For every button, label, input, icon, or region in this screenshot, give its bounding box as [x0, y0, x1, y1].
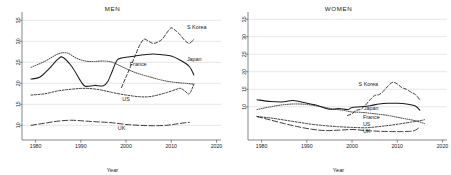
panel-men: MEN 10152025303519801990200020102020S Ko…	[0, 0, 225, 175]
chart-women: 10152025303519801990200020102020S KoreaJ…	[226, 0, 451, 175]
chart-men: 10152025303519801990200020102020S KoreaJ…	[0, 0, 225, 175]
y-tick-label-15: 15	[241, 86, 247, 92]
panel-women: WOMEN 10152025303519801990200020102020S …	[226, 0, 451, 175]
y-tick-label-20: 20	[241, 69, 247, 75]
series-line-us	[31, 84, 194, 97]
y-tick-label-35: 35	[15, 17, 21, 23]
y-tick-label-35: 35	[241, 16, 247, 22]
series-label-japan: Japan	[187, 56, 202, 62]
y-tick-label-25: 25	[15, 59, 21, 65]
series-label-s-korea: S Korea	[359, 81, 378, 87]
x-tick-label-2010: 2010	[391, 143, 403, 149]
x-tick-label-1990: 1990	[75, 143, 87, 149]
series-line-uk	[257, 117, 420, 132]
y-tick-label-10: 10	[241, 104, 247, 110]
y-tick-label-30: 30	[241, 34, 247, 40]
x-tick-label-2010: 2010	[165, 143, 177, 149]
series-label-japan: Japan	[364, 105, 379, 111]
series-line-france	[31, 53, 194, 84]
series-label-uk: UK	[363, 128, 371, 134]
y-tick-label-15: 15	[15, 101, 21, 107]
series-label-uk: UK	[118, 125, 126, 131]
series-label-us: US	[122, 96, 130, 102]
series-label-us: US	[363, 121, 371, 127]
y-tick-label-30: 30	[15, 38, 21, 44]
x-tick-label-2020: 2020	[437, 143, 449, 149]
x-tick-label-2000: 2000	[346, 143, 358, 149]
x-tick-label-2000: 2000	[120, 143, 132, 149]
x-tick-label-1980: 1980	[256, 143, 268, 149]
y-tick-label-10: 10	[15, 122, 21, 128]
series-line-us	[257, 117, 424, 128]
x-axis-title-women: Year	[226, 167, 451, 173]
y-tick-label-25: 25	[241, 51, 247, 57]
x-tick-label-1980: 1980	[30, 143, 42, 149]
x-tick-label-2020: 2020	[211, 143, 223, 149]
series-line-s-korea	[122, 28, 194, 88]
series-label-france: France	[130, 61, 147, 67]
x-tick-label-1990: 1990	[301, 143, 313, 149]
series-line-s-korea	[348, 82, 420, 115]
y-tick-label-20: 20	[15, 80, 21, 86]
series-label-france: France	[363, 114, 380, 120]
series-label-s-korea: S Korea	[187, 24, 206, 30]
figure-root: MEN 10152025303519801990200020102020S Ko…	[0, 0, 451, 175]
x-axis-title-men: Year	[0, 167, 225, 173]
series-line-uk	[31, 120, 189, 125]
